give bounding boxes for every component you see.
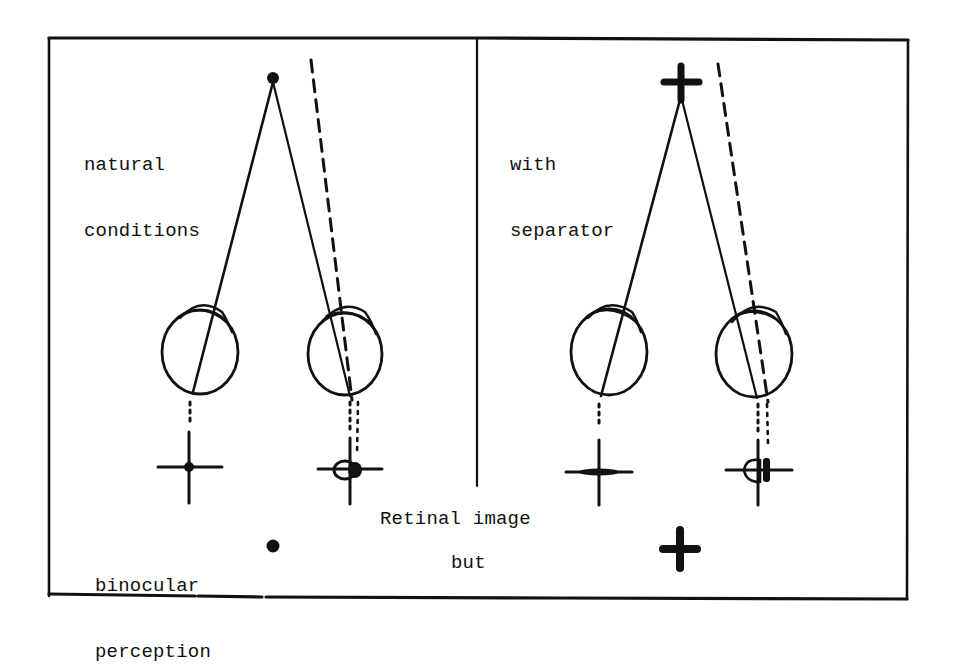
retinal-image-label: Retinal image [380,508,531,530]
left-eye-icon [571,305,647,395]
left-eye-icon [162,305,238,394]
binocular-perception-label: binocular perception [95,531,211,665]
percept-cross-icon [663,530,697,568]
panel-title-separator: with separator [510,110,614,264]
but-label: but [451,552,486,574]
retinal-image-right-eye [318,438,382,504]
title-line: natural [84,154,200,176]
retinal-image-left-eye [566,440,632,505]
retinal-image-left-eye [158,432,222,503]
percept-dot-icon [267,540,280,553]
title-line: conditions [84,220,200,242]
label-line: binocular [95,575,211,597]
panel-title-natural: natural conditions [84,110,200,264]
title-line: with [510,154,614,176]
dashed-axis [718,64,768,402]
label-line: perception [95,641,211,663]
title-line: separator [510,220,614,242]
retinal-image-right-eye [726,440,792,505]
dashed-axis [311,60,352,400]
